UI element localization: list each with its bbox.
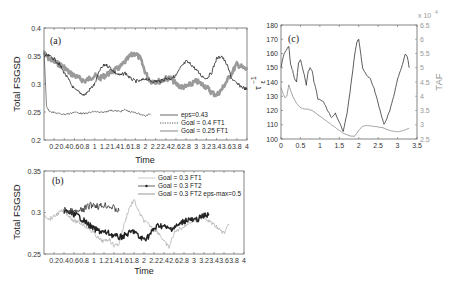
x-tick-label: 4 — [245, 143, 249, 150]
y2-tick-label: 5.5 — [420, 50, 430, 57]
y2-tick-label: 4.5 — [420, 79, 430, 86]
x-tick-label: 1 — [93, 143, 97, 150]
y-tick-label: 0.4 — [31, 25, 41, 32]
y-tick-label: 110 — [267, 121, 278, 128]
y-tick-label: 170 — [266, 36, 278, 43]
panel-a-series — [44, 50, 247, 116]
panel-a-tag: (a) — [50, 35, 61, 47]
x-tick-label: 1.4 — [109, 257, 119, 264]
x-tick-label: 3.4 — [212, 143, 222, 150]
x-tick-label: 1.4 — [110, 143, 120, 150]
x-tick-label: 2.8 — [181, 143, 191, 150]
x-tick-label: 2.5 — [373, 142, 383, 149]
legend-b-label-0: Goal = 0.3 FT1 — [158, 174, 202, 181]
panel-b-ylabel: Total FSGSD — [11, 184, 22, 240]
y2-tick-label: 2.5 — [420, 136, 430, 143]
y2-tick-label: 3.5 — [420, 107, 430, 114]
y-tick-label: 0.35 — [27, 168, 41, 175]
x-tick-label: 1.6 — [120, 143, 130, 150]
x-tick-label: 2.2 — [149, 257, 159, 264]
x-tick-label: 1.2 — [99, 257, 109, 264]
y-tick-label: 0.3 — [31, 209, 41, 216]
x-tick-label: 2.6 — [169, 257, 179, 264]
x-tick-label: 0.4 — [59, 257, 69, 264]
series-line — [44, 50, 151, 116]
y-tick-label: 130 — [266, 93, 278, 100]
x-tick-label: 3 — [194, 143, 198, 150]
x-tick-label: 1.6 — [119, 257, 129, 264]
tau-symbol: τ — [252, 86, 263, 90]
x-tick-label: 3 — [396, 142, 400, 149]
x-tick-label: 2.4 — [159, 257, 169, 264]
panel-b-series — [44, 200, 229, 249]
panel-b-xlabel: Time — [134, 266, 154, 276]
x-tick-label: 3.2 — [199, 257, 209, 264]
figure-canvas: 0.20.40.60.811.21.41.61.822.22.42.62.833… — [0, 0, 459, 292]
x-tick-label: 1.5 — [334, 142, 344, 149]
x-tick-label: 2 — [357, 142, 361, 149]
y-tick-label: 160 — [266, 50, 278, 57]
y-tick-label: 150 — [266, 64, 278, 71]
y-tick-label: 140 — [266, 79, 278, 86]
y-tick-label: 0.25 — [27, 109, 41, 116]
tau-superscript: −1 — [250, 76, 257, 84]
series-line — [281, 39, 409, 131]
x-tick-label: 0 — [279, 142, 283, 149]
panel-b-tag: (b) — [52, 175, 64, 187]
y-tick-label: 0.35 — [27, 53, 41, 60]
x-tick-label: 0.8 — [79, 257, 89, 264]
series-line — [44, 200, 229, 249]
legend-b-label-1: Goal = 0.3 FT2 — [158, 182, 202, 189]
x-tick-label: 2.4 — [161, 143, 171, 150]
x-tick-label: 3.5 — [412, 142, 422, 149]
y2-tick-label: 6 — [420, 36, 424, 43]
y-tick-label: 180 — [266, 22, 278, 29]
panel-c-tag: (c) — [288, 33, 299, 45]
legend-b-label-2: Goal = 0.3 FT2 eps-max=0.5 — [158, 190, 241, 198]
legend-b-marker-1 — [145, 185, 147, 187]
x-tick-label: 3.8 — [229, 257, 239, 264]
panel-c: 00.511.522.533.5100110120130140150160170… — [250, 9, 444, 149]
x-tick-label: 2.2 — [151, 143, 161, 150]
x-tick-label: 3.8 — [232, 143, 242, 150]
y-tick-label: 0.2 — [31, 137, 41, 144]
x-tick-label: 0.2 — [49, 257, 59, 264]
panel-b-legend: Goal = 0.3 FT1 Goal = 0.3 FT2 Goal = 0.3… — [138, 174, 241, 198]
panel-c-multiplier-exp: 4 — [435, 9, 438, 15]
y-tick-label: 100 — [266, 136, 278, 143]
x-tick-label: 0.4 — [59, 143, 69, 150]
legend-a-label-1: Goal = 0.4 FT1 — [181, 119, 225, 126]
y-tick-label: 0.3 — [31, 81, 41, 88]
panel-c-ylabel: τ ε −1 — [250, 76, 266, 90]
series-line — [64, 210, 209, 241]
x-tick-label: 0.8 — [80, 143, 90, 150]
x-tick-label: 1.2 — [100, 143, 110, 150]
x-tick-label: 0.2 — [49, 143, 59, 150]
x-tick-label: 3.4 — [209, 257, 219, 264]
x-tick-label: 3.2 — [202, 143, 212, 150]
x-tick-label: 1 — [318, 142, 322, 149]
legend-a-label-0: eps=0.43 — [181, 111, 208, 119]
x-tick-label: 1.8 — [129, 257, 139, 264]
panel-c-multiplier: x 10 — [418, 12, 431, 19]
y-tick-label: 0.25 — [27, 251, 41, 258]
panel-c-series — [281, 39, 409, 136]
panel-a-xlabel: Time — [135, 155, 155, 165]
y2-tick-label: 5 — [420, 64, 424, 71]
x-tick-label: 2.8 — [179, 257, 189, 264]
tau-subscript: ε — [259, 80, 266, 83]
y2-tick-label: 6.5 — [420, 22, 430, 29]
x-tick-label: 4 — [242, 257, 246, 264]
y2-tick-label: 3 — [420, 121, 424, 128]
x-tick-label: 0.5 — [296, 142, 306, 149]
x-tick-label: 3.6 — [219, 257, 229, 264]
x-tick-label: 1 — [92, 257, 96, 264]
x-tick-label: 0.6 — [70, 143, 80, 150]
panel-b: 0.20.40.60.811.21.41.61.822.22.42.62.833… — [11, 168, 246, 277]
x-tick-label: 3.6 — [222, 143, 232, 150]
panel-a-legend: eps=0.43 Goal = 0.4 FT1 Goal = 0.25 FT1 — [160, 111, 229, 134]
x-tick-label: 2 — [142, 257, 146, 264]
x-tick-label: 3 — [192, 257, 196, 264]
panel-a: 0.20.40.60.811.21.41.61.822.22.42.62.833… — [11, 25, 249, 166]
y-tick-label: 120 — [266, 107, 278, 114]
